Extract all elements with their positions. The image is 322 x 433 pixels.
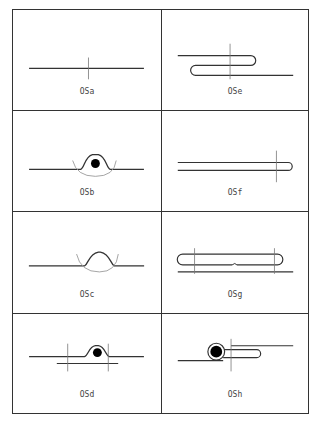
cell-label: OSe bbox=[162, 87, 308, 96]
cell-label: OSb bbox=[13, 188, 161, 197]
cell-osc: OSc bbox=[13, 212, 162, 314]
cell-label: OSc bbox=[13, 290, 161, 299]
cell-label: OSg bbox=[162, 290, 308, 299]
cell-osd: OSd bbox=[13, 314, 162, 413]
black-dot-icon bbox=[210, 346, 222, 358]
cell-osa: OSa bbox=[13, 10, 162, 111]
cell-osg: OSg bbox=[162, 212, 308, 314]
black-dot-icon bbox=[91, 159, 100, 168]
cell-osf: OSf bbox=[162, 111, 308, 212]
diagram-grid: OSa OSe OSb OSf OSc bbox=[12, 9, 309, 414]
cell-label: OSh bbox=[162, 390, 308, 399]
cell-label: OSf bbox=[162, 188, 308, 197]
cell-label: OSa bbox=[13, 87, 161, 96]
cell-osh: OSh bbox=[162, 314, 308, 413]
cell-label: OSd bbox=[13, 390, 161, 399]
black-dot-icon bbox=[93, 348, 102, 357]
cell-osb: OSb bbox=[13, 111, 162, 212]
cell-ose: OSe bbox=[162, 10, 308, 111]
figure-title-clipped bbox=[100, 0, 230, 3]
